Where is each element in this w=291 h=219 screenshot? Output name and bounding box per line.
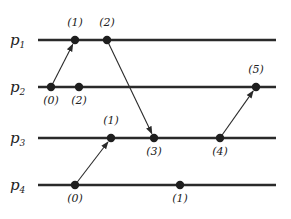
event-label: (0) — [67, 192, 83, 205]
message-arrow-p2-to-p1 — [51, 44, 73, 87]
event-dot-p2 — [75, 83, 83, 91]
process-label-p4: p4 — [10, 176, 26, 195]
message-arrow-p3-to-p2 — [220, 91, 253, 138]
event-label: (3) — [146, 145, 162, 158]
event-label: (1) — [67, 16, 83, 29]
event-label: (2) — [71, 94, 87, 107]
event-dot-p2 — [252, 83, 260, 91]
event-label: (2) — [99, 16, 115, 29]
event-dot-p4 — [176, 181, 184, 189]
event-dot-p2 — [47, 83, 55, 91]
event-label: (4) — [212, 145, 228, 158]
event-dot-p3 — [150, 134, 158, 142]
event-label: (0) — [43, 94, 59, 107]
event-dot-p3 — [107, 134, 115, 142]
process-label-p2: p2 — [10, 78, 26, 97]
diagram-canvas: p1p2p3p4 (1)(2)(0)(2)(5)(1)(3)(4)(0)(1) — [0, 0, 291, 219]
event-label: (1) — [172, 192, 188, 205]
event-label: (1) — [103, 114, 119, 127]
message-arrow-p4-to-p3 — [75, 142, 108, 185]
process-label-p3: p3 — [10, 129, 26, 148]
event-dot-p1 — [103, 36, 111, 44]
event-dot-p4 — [71, 181, 79, 189]
event-label: (5) — [248, 63, 264, 76]
process-diagram: p1p2p3p4 (1)(2)(0)(2)(5)(1)(3)(4)(0)(1) — [0, 0, 291, 219]
event-dot-p3 — [216, 134, 224, 142]
process-label-p1: p1 — [10, 31, 25, 50]
event-dot-p1 — [71, 36, 79, 44]
